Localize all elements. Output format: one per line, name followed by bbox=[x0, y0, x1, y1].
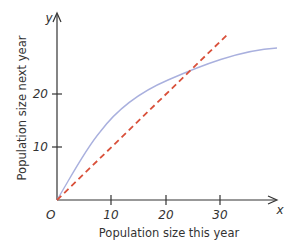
y-tick-label-20: 20 bbox=[33, 87, 49, 101]
y-axis-title: Population size next year bbox=[15, 35, 29, 180]
x-tick-label-10: 10 bbox=[103, 208, 119, 222]
origin-label: O bbox=[46, 208, 55, 222]
y-tick-label-10: 10 bbox=[33, 140, 49, 154]
population-curve bbox=[57, 48, 277, 200]
x-axis-title: Population size this year bbox=[99, 226, 240, 240]
x-tick-label-20: 20 bbox=[158, 208, 174, 222]
x-axis-var-label: x bbox=[275, 203, 284, 217]
chart: O 10 20 30 x 10 20 y Population size thi… bbox=[0, 0, 303, 251]
x-tick-label-30: 30 bbox=[212, 208, 228, 222]
y-axis-var-label: y bbox=[44, 11, 53, 25]
identity-dashed-line bbox=[57, 33, 229, 200]
